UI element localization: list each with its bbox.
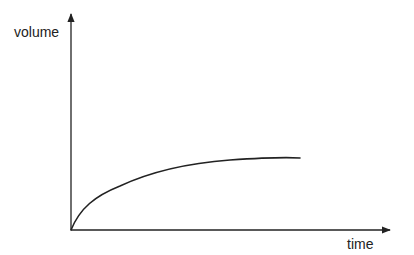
x-axis-label: time xyxy=(347,237,373,251)
diagram-canvas xyxy=(0,0,414,255)
y-axis-label: volume xyxy=(14,25,59,39)
volume-curve xyxy=(71,158,300,230)
